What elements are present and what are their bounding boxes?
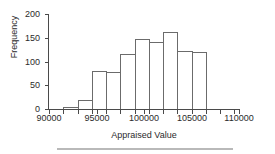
x-axis-major-tick (144, 110, 145, 114)
y-axis-tick-label: 50 (14, 80, 40, 90)
histogram-bar (78, 100, 93, 109)
x-axis-major-tick (49, 110, 50, 114)
x-axis-tick-label: 100000 (119, 113, 169, 124)
x-axis-major-tick (192, 110, 193, 114)
histogram-bar (92, 71, 107, 109)
x-axis-tick (120, 110, 121, 114)
y-axis-line (48, 14, 49, 110)
x-axis-line (48, 109, 240, 110)
y-axis-tick-label: 200 (14, 9, 40, 19)
x-axis-tick (106, 110, 107, 114)
histogram-bar (163, 32, 178, 109)
x-axis-tick (63, 110, 64, 114)
x-axis-tick-label: 105000 (167, 113, 217, 124)
x-axis-tick-label: 110000 (214, 113, 264, 124)
footer-divider (57, 148, 233, 150)
x-axis-tick (135, 110, 136, 114)
x-axis-tick-label: 95000 (72, 113, 122, 124)
x-axis-tick (78, 110, 79, 114)
histogram-figure: Frequency 050100150200 90000950001000001… (0, 0, 275, 154)
x-axis-tick (92, 110, 93, 114)
x-axis-tick (163, 110, 164, 114)
histogram-bar (192, 52, 207, 109)
x-axis-major-tick (97, 110, 98, 114)
x-axis-major-tick (239, 110, 240, 114)
x-axis-tick (234, 110, 235, 114)
x-axis-tick (149, 110, 150, 114)
x-axis-label: Appraised Value (49, 130, 239, 140)
x-axis-tick (220, 110, 221, 114)
y-axis-tick-label: 100 (14, 57, 40, 67)
histogram-bar (120, 54, 136, 109)
x-axis-tick (206, 110, 207, 114)
histogram-bar (149, 42, 164, 109)
histogram-bar (177, 51, 193, 109)
x-axis-tick (177, 110, 178, 114)
y-axis-tick-label: 150 (14, 33, 40, 43)
histogram-bar (135, 39, 150, 109)
histogram-bar (106, 72, 121, 109)
x-axis-tick-label: 90000 (24, 113, 74, 124)
